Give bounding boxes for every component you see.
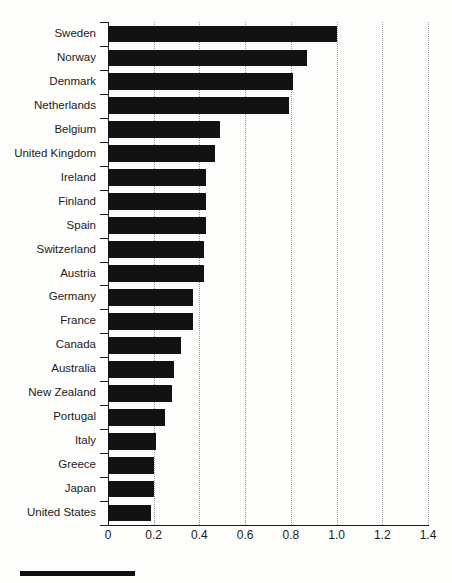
category-label-belgium: Belgium [54, 124, 96, 136]
category-tick [100, 333, 108, 334]
bar-portugal [108, 409, 165, 426]
bar-germany [108, 289, 193, 306]
category-tick [100, 238, 108, 239]
category-tick [100, 381, 108, 382]
category-tick [100, 285, 108, 286]
bar-series [108, 22, 428, 525]
category-label-spain: Spain [67, 220, 96, 232]
category-label-australia: Australia [51, 363, 96, 375]
footer-rule [20, 571, 135, 576]
bar-italy [108, 433, 156, 450]
category-tick [100, 357, 108, 358]
category-label-austria: Austria [60, 268, 96, 280]
plot-area [108, 22, 428, 525]
bar-row [108, 409, 428, 426]
bar-row [108, 193, 428, 210]
category-tick [100, 142, 108, 143]
bar-row [108, 481, 428, 498]
bar-row [108, 385, 428, 402]
category-tick [100, 501, 108, 502]
bar-row [108, 97, 428, 114]
bar-austria [108, 265, 204, 282]
category-tick [100, 262, 108, 263]
bar-row [108, 26, 428, 43]
x-tick-label-0.2: 0.2 [145, 528, 162, 542]
category-label-norway: Norway [57, 52, 96, 64]
category-label-united-states: United States [27, 507, 96, 519]
category-tick [100, 214, 108, 215]
bar-norway [108, 50, 307, 67]
category-label-france: France [60, 315, 96, 327]
category-label-new-zealand: New Zealand [28, 387, 96, 399]
category-tick [100, 477, 108, 478]
category-tick [100, 190, 108, 191]
bar-row [108, 121, 428, 138]
gridline-1.4 [428, 22, 429, 525]
category-tick [100, 70, 108, 71]
category-label-portugal: Portugal [53, 411, 96, 423]
bar-netherlands [108, 97, 289, 114]
category-tick [100, 22, 108, 23]
x-tick-label-0: 0 [105, 528, 112, 542]
bar-united-states [108, 505, 151, 522]
bar-united-kingdom [108, 145, 215, 162]
category-tick [100, 309, 108, 310]
category-tick [100, 166, 108, 167]
bar-greece [108, 457, 154, 474]
category-label-italy: Italy [75, 435, 96, 447]
category-label-greece: Greece [58, 459, 96, 471]
bar-row [108, 361, 428, 378]
category-axis: SwedenNorwayDenmarkNetherlandsBelgiumUni… [0, 22, 104, 525]
category-tick [100, 429, 108, 430]
category-label-finland: Finland [58, 196, 96, 208]
bar-row [108, 289, 428, 306]
bar-finland [108, 193, 206, 210]
category-tick [100, 453, 108, 454]
category-tick [100, 405, 108, 406]
bar-row [108, 241, 428, 258]
x-tick-label-0.6: 0.6 [237, 528, 254, 542]
x-axis-tick-labels: 00.20.40.60.81.01.21.4 [108, 528, 428, 548]
bar-row [108, 265, 428, 282]
bar-ireland [108, 169, 206, 186]
bar-row [108, 457, 428, 474]
category-label-germany: Germany [49, 291, 96, 303]
category-tick [100, 525, 108, 526]
bar-sweden [108, 26, 337, 43]
category-label-switzerland: Switzerland [37, 244, 96, 256]
bar-new-zealand [108, 385, 172, 402]
bar-canada [108, 337, 181, 354]
category-tick [100, 118, 108, 119]
bar-row [108, 145, 428, 162]
bar-row [108, 73, 428, 90]
bar-australia [108, 361, 174, 378]
bar-row [108, 433, 428, 450]
bar-switzerland [108, 241, 204, 258]
bar-row [108, 505, 428, 522]
category-label-united-kingdom: United Kingdom [14, 148, 96, 160]
bar-row [108, 169, 428, 186]
bar-chart-figure: SwedenNorwayDenmarkNetherlandsBelgiumUni… [0, 0, 452, 583]
x-tick-label-0.4: 0.4 [191, 528, 208, 542]
bar-row [108, 337, 428, 354]
x-tick-label-1.4: 1.4 [420, 528, 437, 542]
category-tick [100, 94, 108, 95]
bar-row [108, 217, 428, 234]
category-label-netherlands: Netherlands [34, 100, 96, 112]
bar-france [108, 313, 193, 330]
bar-row [108, 313, 428, 330]
category-tick [100, 46, 108, 47]
bar-belgium [108, 121, 220, 138]
x-tick-label-1.2: 1.2 [374, 528, 391, 542]
bar-denmark [108, 73, 293, 90]
x-tick-label-1.0: 1.0 [328, 528, 345, 542]
bar-spain [108, 217, 206, 234]
category-label-canada: Canada [56, 339, 96, 351]
category-label-japan: Japan [65, 483, 96, 495]
bar-row [108, 50, 428, 67]
bar-japan [108, 481, 154, 498]
category-label-ireland: Ireland [61, 172, 96, 184]
x-tick-label-0.8: 0.8 [283, 528, 300, 542]
category-label-sweden: Sweden [54, 28, 96, 40]
x-axis-line [108, 525, 429, 526]
